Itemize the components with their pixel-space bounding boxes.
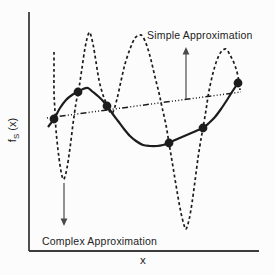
data-point [50, 115, 59, 124]
simple-approximation-label: Simple Approximation [147, 29, 253, 41]
y-axis-label: fS (x) [6, 107, 22, 153]
plot-svg [0, 0, 275, 275]
data-point [103, 102, 112, 111]
complex-annotation-arrowhead [61, 219, 68, 227]
y-axis-label-rest: (x) [6, 118, 18, 134]
y-axis-label-base: f [6, 139, 18, 142]
data-point [165, 139, 174, 148]
simple-annotation-arrowhead [183, 47, 190, 55]
approximation-figure: Simple Approximation Complex Approximati… [0, 0, 275, 275]
data-point [234, 79, 243, 88]
x-axis-label: x [140, 254, 146, 266]
y-axis-label-subscript: S [12, 134, 21, 139]
data-point [74, 88, 83, 97]
complex-approximation-label: Complex Approximation [42, 235, 157, 247]
complex-approximation-curve [54, 32, 240, 229]
data-point [199, 124, 208, 133]
